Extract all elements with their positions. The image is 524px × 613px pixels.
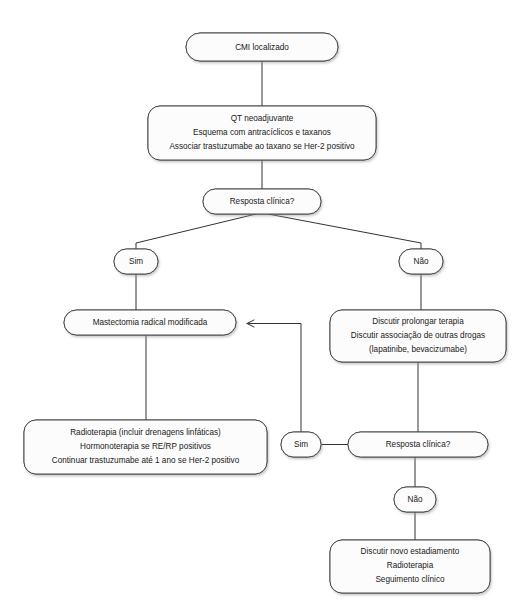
nao-2-label: Não (407, 495, 422, 504)
final-line-1: Discutir novo estadiamento (361, 547, 460, 556)
resposta-clinica-1-label: Resposta clínica? (230, 197, 295, 206)
edge-resp1-to-sim1 (136, 214, 256, 249)
node-discutir-prolongar-terapia[interactable]: Discutir prolongar terapia Discutir asso… (330, 310, 506, 362)
node-radioterapia-hormonoterapia[interactable]: Radioterapia (incluir drenagens linfátic… (24, 420, 267, 474)
edge-resp1-to-nao1 (268, 214, 421, 249)
sim-1-label: Sim (129, 257, 143, 266)
nao-1-label: Não (413, 257, 428, 266)
edge-sim2-to-mastectomia (247, 324, 301, 433)
mastectomia-label: Mastectomia radical modificada (93, 318, 208, 327)
flowchart-root: protocolo protocolo (0, 0, 524, 613)
node-sim-1[interactable]: Sim (114, 249, 158, 274)
node-nao-2[interactable]: Não (394, 487, 436, 512)
radioterapia-line-2: Hormonoterapia se RE/RP positivos (80, 442, 211, 451)
sim-2-label: Sim (294, 440, 308, 449)
qt-neoadjuvante-line-2: Esquema com antracíclicos e taxanos (193, 128, 331, 137)
node-sim-2[interactable]: Sim (281, 432, 321, 457)
discutir-line-3: (lapatinibe, bevacizumabe) (369, 345, 467, 354)
flowchart-canvas: protocolo protocolo (0, 0, 524, 613)
discutir-line-1: Discutir prolongar terapia (372, 317, 464, 326)
node-qt-neoadjuvante[interactable]: QT neoadjuvante Esquema com antracíclico… (148, 106, 376, 160)
node-nao-1[interactable]: Não (399, 249, 443, 274)
qt-neoadjuvante-line-3: Associar trastuzumabe ao taxano se Her-2… (169, 142, 355, 151)
discutir-line-2: Discutir associação de outras drogas (351, 331, 485, 340)
node-cmi-localizado[interactable]: CMI localizado (186, 33, 338, 61)
node-resposta-clinica-2[interactable]: Resposta clínica? (348, 432, 488, 457)
radioterapia-line-3: Continuar trastuzumabe até 1 ano se Her-… (52, 456, 240, 465)
resposta-clinica-2-label: Resposta clínica? (386, 440, 451, 449)
qt-neoadjuvante-line-1: QT neoadjuvante (231, 114, 294, 123)
node-mastectomia-radical-modificada[interactable]: Mastectomia radical modificada (64, 310, 236, 335)
node-discutir-novo-estadiamento[interactable]: Discutir novo estadiamento Radioterapia … (330, 540, 490, 593)
cmi-localizado-label: CMI localizado (235, 43, 289, 52)
final-line-3: Seguimento clínico (375, 575, 445, 584)
radioterapia-line-1: Radioterapia (incluir drenagens linfátic… (70, 428, 221, 437)
node-resposta-clinica-1[interactable]: Resposta clínica? (203, 189, 321, 214)
final-line-2: Radioterapia (387, 561, 434, 570)
